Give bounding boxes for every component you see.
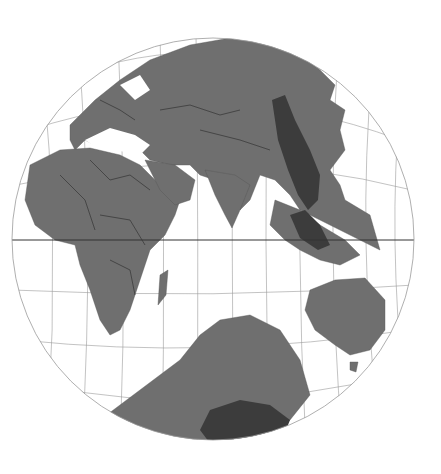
globe <box>12 33 414 460</box>
globe-map <box>0 0 441 474</box>
